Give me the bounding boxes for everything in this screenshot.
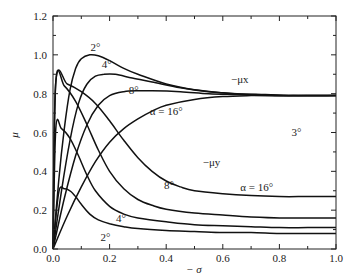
- curve-annotation: 2°: [100, 231, 110, 243]
- curve-mu_y-alpha-4: [53, 119, 336, 249]
- y-tick-label: 1.0: [33, 49, 47, 61]
- chart-container: 0.00.20.40.60.81.00.00.20.40.60.81.01.2 …: [0, 0, 348, 278]
- curve-annotation: −μy: [203, 156, 221, 168]
- curve-annotation: α = 16°: [150, 105, 183, 117]
- curve-annotation: α = 16°: [240, 181, 273, 193]
- curve-annotation: 3°: [291, 126, 301, 138]
- curves: [53, 55, 336, 249]
- x-tick-label: 0.6: [216, 252, 230, 264]
- x-tick-label: 0.4: [159, 252, 173, 264]
- x-axis-label: − σ: [186, 263, 202, 275]
- curve-mu_x-alpha-16: [53, 96, 336, 249]
- y-tick-label: 0.4: [33, 165, 47, 177]
- curve-annotation: 2°: [90, 41, 100, 53]
- curve-mu_y-alpha-8: [53, 70, 336, 249]
- x-tick-label: 0.2: [103, 252, 117, 264]
- x-tick-label: 1.0: [329, 252, 343, 264]
- curve-annotation: 8°: [164, 179, 174, 191]
- x-tick-label: 0.0: [46, 252, 60, 264]
- y-tick-label: 0.0: [33, 243, 47, 255]
- mu-vs-sigma-chart: 0.00.20.40.60.81.00.00.20.40.60.81.01.2 …: [0, 0, 348, 278]
- y-tick-label: 0.6: [33, 127, 47, 139]
- curve-annotation: −μx: [231, 73, 249, 85]
- curve-mu_x-alpha-2: [53, 55, 336, 249]
- y-tick-label: 0.2: [33, 204, 47, 216]
- curve-annotation: 4°: [102, 58, 112, 70]
- y-axis-label: μ: [8, 132, 20, 139]
- y-tick-label: 1.2: [33, 10, 47, 22]
- y-tick-label: 0.8: [33, 88, 47, 100]
- curve-annotation: 4°: [116, 212, 126, 224]
- x-tick-label: 0.8: [273, 252, 287, 264]
- curve-mu_y-alpha-16: [53, 70, 336, 249]
- curve-annotation: 8°: [129, 84, 139, 96]
